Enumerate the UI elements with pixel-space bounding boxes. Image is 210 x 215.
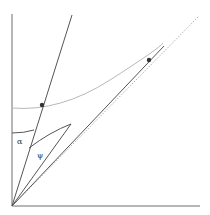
psi-curve (29, 124, 71, 148)
second-line (12, 46, 164, 206)
upper-curve (12, 43, 163, 108)
intersection-point-upper (147, 58, 151, 62)
steep-line (12, 15, 72, 206)
psi-label: ψ (37, 151, 43, 160)
alpha-arc (12, 130, 34, 133)
alpha-label: α (17, 137, 23, 146)
dotted-diagonal-line (12, 16, 199, 206)
intersection-point-lower (40, 103, 44, 107)
geometry-diagram: α ψ (0, 0, 210, 215)
